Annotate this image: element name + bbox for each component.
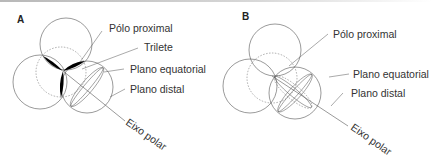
equatorial-plane-ellipse (274, 70, 316, 115)
label-polar-axis: Eixo polar (124, 116, 170, 153)
spore-right (269, 67, 321, 119)
leader-proximal-pole (289, 34, 328, 66)
equatorial-plane-ellipse (66, 64, 107, 110)
crossing-plane-ellipse (272, 74, 314, 111)
label-trilete: Trilete (144, 41, 173, 53)
hidden-plane-ellipse (270, 71, 316, 113)
trilete-arm-down (60, 71, 64, 98)
label-equatorial-plane: Plano equatorial (130, 63, 206, 75)
leader-equatorial (329, 74, 349, 77)
label-proximal-pole: Pólo proximal (333, 28, 397, 40)
label-polar-axis: Eixo polar (349, 121, 395, 158)
leader-distal (331, 93, 343, 106)
spore-top (40, 18, 92, 70)
label-equatorial-plane: Plano equatorial (353, 68, 429, 80)
label-distal-plane: Plano distal (130, 83, 184, 95)
panel-a: A Pólo proximal Trilete Plano equatorial… (13, 14, 206, 153)
label-proximal-pole: Pólo proximal (109, 22, 173, 34)
polar-axis-line (272, 76, 348, 126)
panel-b: B Pólo proximal Plano equatorial Plano d… (223, 11, 429, 158)
spore-tetrad-diagram: A Pólo proximal Trilete Plano equatorial… (0, 0, 432, 166)
label-distal-plane: Plano distal (351, 87, 405, 99)
spore-left (223, 59, 277, 113)
distal-plane-ellipse (69, 66, 106, 108)
spore-back-dashed (247, 53, 297, 103)
polar-axis-line (63, 71, 125, 121)
trilete-arm-right (63, 61, 85, 71)
panel-b-label: B (242, 11, 249, 22)
spore-top (249, 24, 301, 76)
panel-a-label: A (17, 14, 24, 25)
spore-left (13, 55, 67, 109)
leader-proximal-pole (80, 31, 102, 62)
